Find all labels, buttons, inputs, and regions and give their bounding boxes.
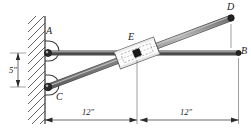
wall-hatching xyxy=(28,7,45,135)
label-point-d: D xyxy=(227,2,234,12)
label-vertical-offset: 5″ xyxy=(9,66,17,75)
pin-c xyxy=(44,83,52,91)
label-point-c: C xyxy=(56,92,63,102)
dimension-span-right xyxy=(140,118,239,123)
label-point-e: E xyxy=(128,32,134,42)
dimension-span-left xyxy=(45,118,137,123)
label-span-right: 12″ xyxy=(180,108,192,117)
pin-a xyxy=(45,50,52,57)
label-point-a: A xyxy=(46,26,52,36)
pin-c-highlight xyxy=(46,85,49,88)
pin-a-highlight xyxy=(46,51,49,54)
label-point-b: B xyxy=(241,46,247,56)
mechanism-drawing xyxy=(0,0,251,135)
wall-support xyxy=(28,7,45,135)
mechanism-figure: A C B D E 5″ 12″ 12″ xyxy=(0,0,251,135)
end-cap-d xyxy=(228,15,234,21)
label-span-left: 12″ xyxy=(82,108,94,117)
